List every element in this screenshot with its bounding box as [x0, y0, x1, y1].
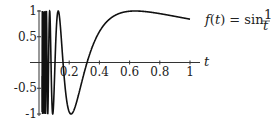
x-tick-label: 0.6	[120, 65, 139, 79]
svg-text:f(t) = sin: f(t) = sin	[204, 12, 264, 27]
y-tick-label: -0.5	[14, 81, 37, 95]
x-tick-label: 0.8	[150, 65, 169, 79]
y-tick-label: 0.5	[18, 30, 37, 44]
svg-text:t: t	[263, 18, 269, 33]
x-tick-label: 1	[186, 65, 194, 79]
equation-annotation: f(t) = sin 1 t	[204, 7, 272, 33]
y-tick-label: 1	[29, 4, 37, 18]
t-axis-label: t	[204, 54, 210, 69]
sine-reciprocal-plot: 0.20.40.60.8110.5-0.5-1 t f(t) = sin 1 t	[0, 0, 279, 126]
x-tick-label: 0.4	[90, 65, 109, 79]
x-tick-label: 0.2	[60, 65, 79, 79]
y-tick-label: -1	[25, 107, 37, 121]
